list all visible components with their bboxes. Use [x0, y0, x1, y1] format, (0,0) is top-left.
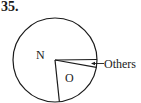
label-n: N [36, 48, 45, 62]
pie-chart: N O Others [0, 0, 141, 103]
label-o: O [65, 71, 74, 85]
label-others: Others [104, 57, 136, 71]
sector-divider-others-top [55, 60, 97, 61]
